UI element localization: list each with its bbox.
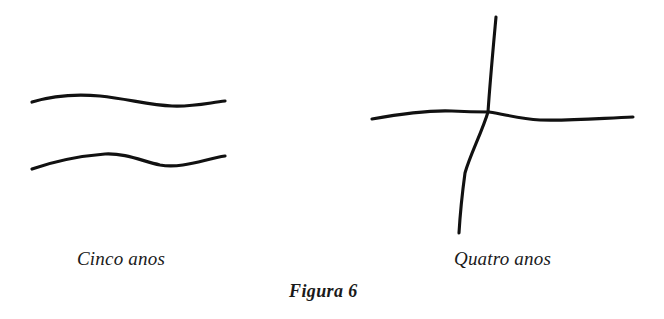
upper-wavy-line-stroke (32, 95, 225, 106)
figure-page: Cinco anos Quatro anos Figura 6 (0, 0, 664, 319)
horizontal-stroke (372, 111, 633, 120)
lower-wavy-line-stroke (32, 154, 225, 169)
figure-drawing (0, 0, 664, 319)
vertical-stroke (459, 17, 496, 233)
panel-label-quatro-anos: Quatro anos (454, 248, 551, 270)
panel-label-cinco-anos: Cinco anos (77, 248, 165, 270)
figure-caption: Figura 6 (289, 281, 358, 302)
